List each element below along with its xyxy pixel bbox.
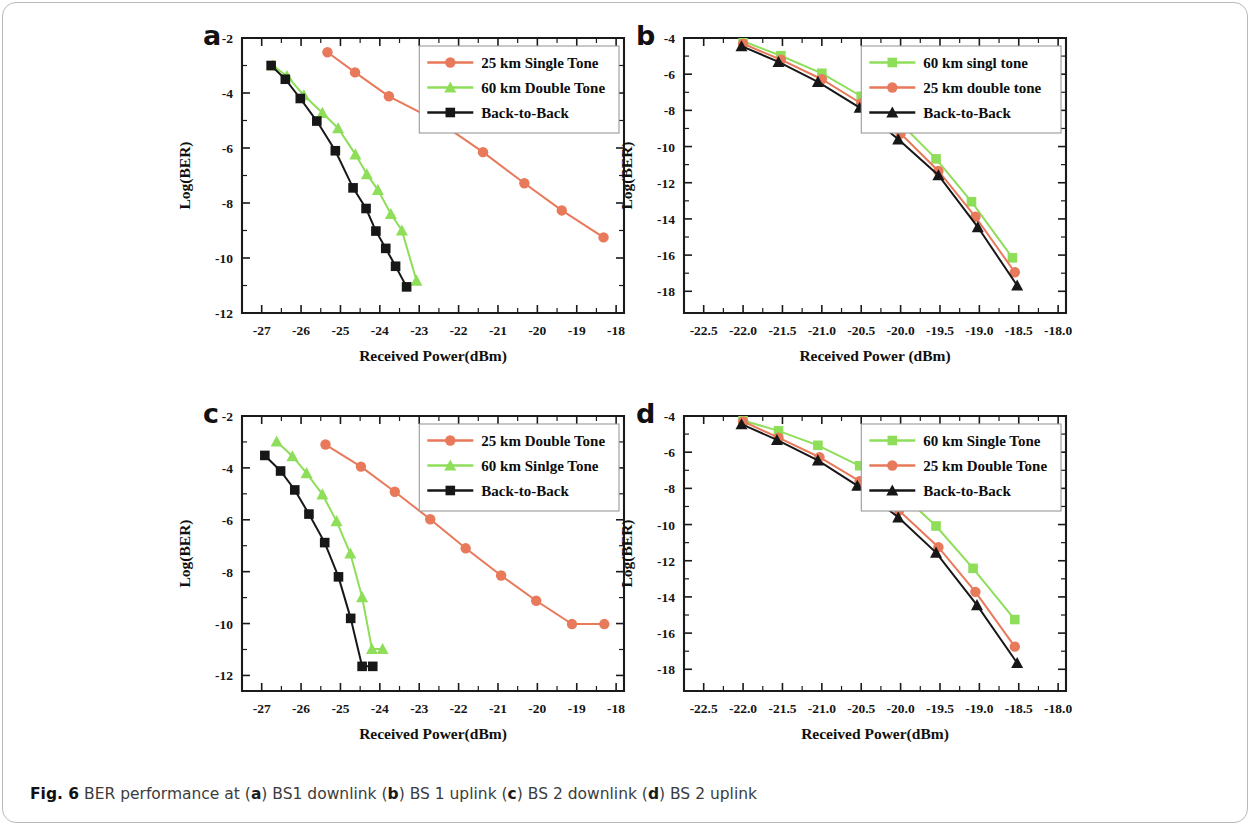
- x-tick-label: -22: [450, 701, 468, 716]
- legend-label: 60 km Single Tone: [923, 433, 1040, 449]
- y-tick-label: -18: [657, 284, 675, 299]
- x-tick-label: -19.0: [965, 701, 993, 716]
- data-point: [290, 485, 300, 495]
- x-tick-label: -18.0: [1044, 701, 1072, 716]
- y-tick-label: -4: [664, 409, 675, 424]
- x-tick-label: -20.5: [847, 701, 875, 716]
- legend-marker: [445, 435, 455, 445]
- figure-label: Fig. 6: [30, 785, 79, 803]
- y-tick-label: -6: [222, 513, 233, 528]
- legend-label: 25 km Double Tone: [923, 458, 1047, 474]
- y-tick-label: -8: [222, 565, 233, 580]
- data-point: [968, 564, 978, 574]
- x-tick-label: -18.0: [1044, 323, 1072, 338]
- data-point: [361, 204, 371, 214]
- data-point: [519, 178, 529, 188]
- y-tick-label: -14: [657, 212, 675, 227]
- data-point: [348, 183, 358, 193]
- legend-marker: [888, 436, 898, 446]
- chart-svg-b: -22.5-22.0-21.5-21.0-20.5-20.0-19.5-19.0…: [612, 10, 1082, 385]
- x-tick-label: -24: [371, 701, 389, 716]
- y-tick-label: -16: [657, 626, 675, 641]
- legend-label: 25 km double tone: [923, 80, 1041, 96]
- data-point: [384, 91, 394, 101]
- y-tick-label: -18: [657, 662, 675, 677]
- y-tick-label: -2: [222, 31, 233, 46]
- data-point: [478, 147, 488, 157]
- figure-page: -27-26-25-24-23-22-21-20-19-18-2-4-6-8-1…: [0, 0, 1252, 827]
- panel-letter-b: b: [636, 22, 655, 49]
- data-point: [1008, 253, 1018, 263]
- legend-label: Back-to-Back: [923, 483, 1011, 499]
- x-tick-label: -20.5: [847, 323, 875, 338]
- series-2: [271, 435, 389, 654]
- y-tick-label: -6: [664, 67, 675, 82]
- y-axis-title: Log(BER): [176, 141, 194, 209]
- x-axis-title: Received Power(dBm): [359, 347, 507, 365]
- x-axis-title: Received Power (dBm): [799, 347, 950, 365]
- y-tick-label: -12: [215, 306, 233, 321]
- x-tick-label: -18.5: [1005, 323, 1033, 338]
- legend-label: Back-to-Back: [481, 105, 569, 121]
- y-tick-label: -6: [222, 141, 233, 156]
- legend-label: 25 km Single Tone: [481, 55, 598, 71]
- x-axis-title: Received Power(dBm): [359, 725, 507, 743]
- data-point: [320, 538, 330, 548]
- data-point: [390, 487, 400, 497]
- y-tick-label: -6: [664, 445, 675, 460]
- x-tick-label: -22.0: [729, 323, 757, 338]
- legend-label: Back-to-Back: [481, 483, 569, 499]
- data-point: [425, 514, 435, 524]
- y-tick-label: -8: [664, 481, 675, 496]
- data-point: [385, 208, 397, 219]
- x-tick-label: -25: [331, 701, 349, 716]
- y-tick-label: -10: [215, 251, 233, 266]
- x-tick-label: -20.0: [887, 323, 915, 338]
- legend-marker: [887, 460, 897, 470]
- data-point: [356, 591, 368, 602]
- data-point: [350, 67, 360, 77]
- x-tick-label: -23: [410, 323, 428, 338]
- data-point: [557, 205, 567, 215]
- data-point: [931, 154, 941, 164]
- data-point: [281, 74, 291, 84]
- data-point: [304, 509, 314, 519]
- chart-panel-a: -27-26-25-24-23-22-21-20-19-18-2-4-6-8-1…: [170, 10, 640, 385]
- chart-svg-d: -22.5-22.0-21.5-21.0-20.5-20.0-19.5-19.0…: [612, 388, 1082, 763]
- data-point: [967, 197, 977, 207]
- data-point: [1010, 615, 1020, 625]
- x-tick-label: -22.5: [690, 323, 718, 338]
- y-tick-label: -4: [664, 31, 675, 46]
- figure-caption-text: BER performance at (a) BS1 downlink (b) …: [84, 785, 757, 803]
- data-point: [391, 261, 401, 271]
- data-point: [496, 570, 506, 580]
- data-point: [1011, 280, 1023, 291]
- x-tick-label: -21.0: [808, 323, 836, 338]
- x-tick-label: -27: [253, 701, 271, 716]
- data-point: [271, 435, 283, 446]
- x-tick-label: -21.5: [768, 701, 796, 716]
- data-point: [344, 548, 356, 559]
- data-point: [346, 614, 356, 624]
- y-tick-label: -8: [664, 103, 675, 118]
- x-tick-label: -20: [528, 323, 546, 338]
- data-point: [331, 146, 341, 156]
- x-tick-label: -22.0: [729, 701, 757, 716]
- data-point: [322, 47, 332, 57]
- x-tick-label: -21.5: [768, 323, 796, 338]
- data-point: [266, 61, 276, 71]
- x-tick-label: -25: [331, 323, 349, 338]
- x-tick-label: -26: [292, 701, 310, 716]
- data-point: [531, 596, 541, 606]
- x-tick-label: -19: [568, 323, 586, 338]
- chart-panel-b: -22.5-22.0-21.5-21.0-20.5-20.0-19.5-19.0…: [612, 10, 1082, 385]
- data-point: [460, 543, 470, 553]
- panel-letter-d: d: [636, 400, 655, 427]
- data-point: [970, 587, 980, 597]
- panel-letter-a: a: [203, 22, 221, 49]
- data-point: [402, 282, 412, 292]
- legend: 25 km Single Tone60 km Double ToneBack-t…: [419, 46, 619, 133]
- x-tick-label: -19.0: [965, 323, 993, 338]
- legend-marker: [445, 57, 455, 67]
- y-tick-label: -10: [215, 617, 233, 632]
